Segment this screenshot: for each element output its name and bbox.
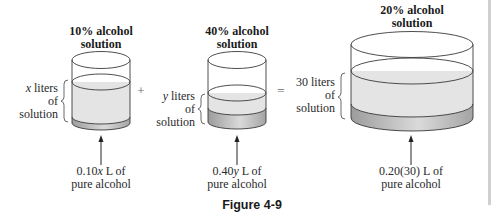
cylinder-icon [351,32,473,132]
container-10-percent: 10% alcohol solution x liters of solutio… [19,24,133,191]
svg-text:of: of [325,88,335,102]
alcohol-amount-label: pure alcohol [71,177,131,191]
plus-sign: + [137,83,144,98]
mixture-diagram: 10% alcohol solution x liters of solutio… [0,0,502,218]
alcohol-amount-label: 0.20(30) L of [379,164,443,178]
svg-text:of: of [48,94,58,108]
container-title: solution [392,16,433,30]
svg-text:x liters: x liters [25,81,59,95]
brace-icon [338,73,345,119]
alcohol-amount-label: pure alcohol [207,177,267,191]
svg-text:of: of [185,102,195,116]
figure-4-9: 10% alcohol solution x liters of solutio… [0,0,502,218]
svg-text:y liters: y liters [162,89,196,103]
svg-text:solution: solution [296,101,335,115]
volume-label: y liters of solution [156,89,205,129]
volume-label: 30 liters of solution [296,73,345,119]
container-title: solution [81,37,122,51]
svg-text:30 liters: 30 liters [296,75,335,89]
cylinder-icon [72,52,130,131]
container-title: solution [217,37,258,51]
alcohol-amount-label: 0.10x L of [76,164,125,178]
alcohol-amount-label: 0.40y L of [212,164,261,178]
svg-text:solution: solution [156,115,195,129]
cylinder-icon [208,52,266,130]
figure-caption: Figure 4-9 [222,198,282,212]
equals-sign: = [277,83,284,98]
container-title: 40% alcohol [205,24,269,38]
alcohol-amount-label: pure alcohol [381,177,441,191]
container-title: 20% alcohol [380,3,444,17]
container-20-percent: 20% alcohol solution 30 liters of soluti… [296,3,473,191]
alcohol-arrow-icon [99,135,104,165]
svg-text:solution: solution [19,107,58,121]
alcohol-arrow-icon [409,135,414,165]
container-40-percent: 40% alcohol solution y liters of solutio… [156,24,269,191]
brace-icon [198,94,205,124]
alcohol-arrow-icon [235,135,240,165]
container-title: 10% alcohol [69,24,133,38]
volume-label: x liters of solution [19,80,68,122]
brace-icon [61,80,68,122]
page-margin-rule [488,0,491,205]
